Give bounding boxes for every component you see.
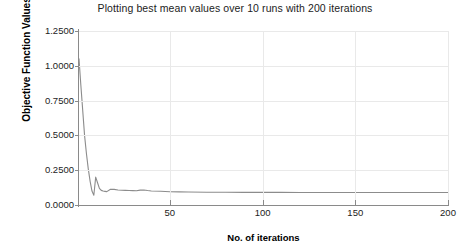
x-tick-label: 150: [335, 208, 375, 218]
y-tick-label: 0.2500: [30, 165, 74, 175]
y-tick-mark: [75, 205, 79, 206]
y-axis-title: Objective Function Values: [21, 0, 32, 150]
x-tick-label: 200: [428, 208, 468, 218]
y-tick-label: 0.0000: [30, 200, 74, 210]
chart-figure: Plotting best mean values over 10 runs w…: [0, 0, 470, 252]
y-tick-label: 1.2500: [30, 26, 74, 36]
plot-area: [79, 31, 448, 205]
y-tick-mark: [75, 170, 79, 171]
gridline-vertical: [170, 31, 171, 205]
y-tick-mark: [75, 66, 79, 67]
gridline-vertical: [448, 31, 449, 205]
y-axis-line: [78, 29, 79, 207]
x-axis-title: No. of iterations: [79, 232, 448, 243]
x-tick-label: 50: [150, 208, 190, 218]
y-tick-mark: [75, 101, 79, 102]
x-axis-line: [78, 205, 449, 206]
x-tick-mark: [263, 200, 264, 205]
gridline-vertical: [355, 31, 356, 205]
y-tick-label: 0.5000: [30, 130, 74, 140]
chart-title: Plotting best mean values over 10 runs w…: [0, 2, 470, 14]
x-tick-label: 100: [243, 208, 283, 218]
gridline-vertical: [263, 31, 264, 205]
x-tick-mark: [355, 200, 356, 205]
x-tick-mark: [448, 200, 449, 205]
x-tick-mark: [170, 200, 171, 205]
y-tick-mark: [75, 31, 79, 32]
y-tick-mark: [75, 135, 79, 136]
y-tick-label: 0.7500: [30, 96, 74, 106]
y-tick-label: 1.0000: [30, 61, 74, 71]
